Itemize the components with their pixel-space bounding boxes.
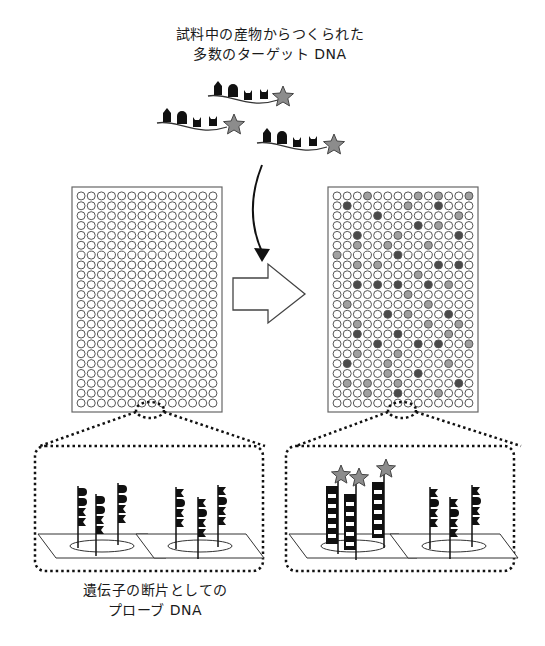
array-spot <box>77 281 85 289</box>
array-spot <box>87 222 95 230</box>
array-spot <box>455 291 463 299</box>
array-spot <box>465 192 473 200</box>
array-spot <box>414 291 422 299</box>
array-spot <box>414 379 422 387</box>
array-spot <box>118 350 126 358</box>
array-spot <box>189 330 197 338</box>
array-spot <box>394 350 402 358</box>
array-spot <box>384 261 392 269</box>
array-spot <box>118 369 126 377</box>
array-spot <box>424 330 432 338</box>
array-spot <box>364 212 372 220</box>
array-spot <box>209 222 217 230</box>
array-spot <box>374 350 382 358</box>
array-spot <box>364 251 372 259</box>
array-spot <box>87 192 95 200</box>
array-spot <box>118 231 126 239</box>
array-spot <box>455 202 463 210</box>
array-spot <box>199 389 207 397</box>
array-spot <box>364 222 372 230</box>
array-spot <box>118 320 126 328</box>
array-spot <box>445 281 453 289</box>
array-spot <box>108 231 116 239</box>
array-spot <box>108 241 116 249</box>
array-spot <box>179 350 187 358</box>
array-spot <box>455 389 463 397</box>
array-spot <box>168 261 176 269</box>
array-spot <box>414 271 422 279</box>
array-spot <box>384 300 392 308</box>
array-spot <box>445 330 453 338</box>
array-spot <box>128 241 136 249</box>
array-spot <box>138 379 146 387</box>
array-spot <box>189 251 197 259</box>
array-spot <box>128 271 136 279</box>
array-spot <box>465 300 473 308</box>
array-spot <box>199 330 207 338</box>
array-spot <box>384 212 392 220</box>
array-spot <box>353 300 361 308</box>
dna-microarray-diagram <box>0 0 545 646</box>
array-spot <box>414 261 422 269</box>
array-spot <box>364 310 372 318</box>
array-spot <box>384 241 392 249</box>
array-spot <box>424 202 432 210</box>
array-spot <box>87 399 95 407</box>
array-spot <box>128 291 136 299</box>
array-spot <box>353 231 361 239</box>
array-spot <box>138 310 146 318</box>
array-spot <box>108 251 116 259</box>
array-spot <box>394 241 402 249</box>
array-spot <box>199 222 207 230</box>
array-spot <box>108 340 116 348</box>
array-spot <box>87 251 95 259</box>
array-spot <box>128 360 136 368</box>
array-spot <box>333 281 341 289</box>
array-spot <box>374 192 382 200</box>
array-spot <box>97 300 105 308</box>
array-spot <box>108 291 116 299</box>
array-spot <box>168 241 176 249</box>
array-spot <box>77 251 85 259</box>
array-spot <box>118 202 126 210</box>
array-spot <box>148 222 156 230</box>
array-spot <box>394 360 402 368</box>
array-spot <box>353 369 361 377</box>
array-spot <box>343 231 351 239</box>
array-spot <box>333 389 341 397</box>
array-spot <box>77 310 85 318</box>
array-spot <box>404 231 412 239</box>
array-spot <box>209 291 217 299</box>
array-spot <box>87 281 95 289</box>
array-spot <box>199 340 207 348</box>
array-spot <box>189 202 197 210</box>
array-spot <box>97 281 105 289</box>
array-spot <box>333 350 341 358</box>
array-spot <box>414 369 422 377</box>
array-spot <box>445 300 453 308</box>
fluorescent-label-star-icon <box>224 114 245 134</box>
probe-dna-caption-line2: プローブ DNA <box>40 600 270 620</box>
array-spot <box>465 389 473 397</box>
array-spot <box>179 360 187 368</box>
array-spot <box>424 192 432 200</box>
array-spot <box>118 389 126 397</box>
array-spot <box>77 360 85 368</box>
array-spot <box>343 261 351 269</box>
array-spot <box>128 281 136 289</box>
array-spot <box>343 399 351 407</box>
array-spot <box>128 202 136 210</box>
array-spot <box>343 320 351 328</box>
array-spot <box>374 222 382 230</box>
array-spot <box>404 281 412 289</box>
array-spot <box>189 222 197 230</box>
array-spot <box>168 350 176 358</box>
array-spot <box>445 340 453 348</box>
array-spot <box>77 202 85 210</box>
array-spot <box>445 202 453 210</box>
array-spot <box>465 310 473 318</box>
array-spot <box>374 251 382 259</box>
array-spot <box>364 399 372 407</box>
array-spot <box>445 271 453 279</box>
array-spot <box>435 320 443 328</box>
